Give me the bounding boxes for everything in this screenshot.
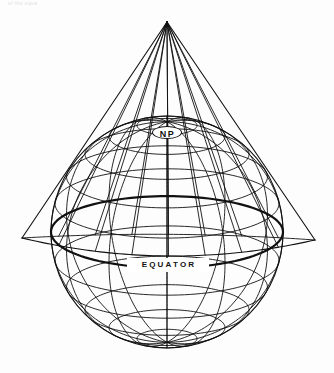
meridian-line bbox=[51, 122, 167, 343]
north-pole-label: NP bbox=[152, 126, 182, 139]
cone-group bbox=[22, 22, 315, 256]
cone-generator-line bbox=[59, 22, 167, 246]
globe-cone-drawing bbox=[0, 0, 334, 373]
cone-generator-line bbox=[167, 22, 242, 252]
globe-group bbox=[51, 116, 283, 348]
meridian-line bbox=[167, 122, 283, 343]
equator-label: EQUATOR bbox=[127, 258, 209, 272]
conic-projection-figure: of the equa NP EQUATOR bbox=[0, 0, 334, 373]
